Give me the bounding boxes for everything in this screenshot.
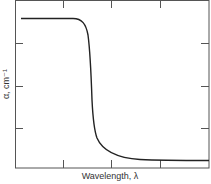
y-axis-ticks (15, 44, 209, 129)
absorption-curve (21, 19, 209, 161)
x-axis-ticks (64, 0, 161, 168)
y-axis-label: α, cm⁻¹ (0, 64, 12, 104)
x-axis-label: Wavelength, λ (60, 170, 160, 182)
chart-canvas (0, 0, 211, 184)
plot-frame (16, 1, 210, 169)
